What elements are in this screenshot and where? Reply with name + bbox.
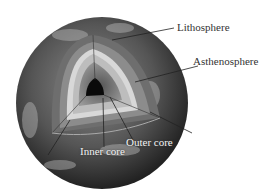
label-outer-core: Outer core xyxy=(126,137,173,148)
label-lithosphere: Lithosphere xyxy=(177,22,230,33)
label-inner-core: Inner core xyxy=(80,146,125,157)
label-asthenosphere: Asthenosphere xyxy=(193,56,258,67)
earth-layers-diagram xyxy=(0,0,272,190)
